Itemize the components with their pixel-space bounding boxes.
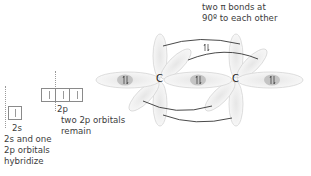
carbon-atom-2-label: C — [232, 73, 239, 84]
electron-up-2s — [15, 109, 16, 117]
pi-bonds-caption-line2: 90º to each other — [202, 13, 277, 24]
hybridize-caption-line1: 2s and one — [4, 134, 52, 145]
orbital-box-2p — [41, 88, 83, 102]
carbon-atom-1-label: C — [156, 73, 163, 84]
remain-caption-line2: remain — [61, 126, 91, 137]
label-2s: 2s — [12, 123, 22, 134]
remain-caption-line1: two 2p orbitals — [61, 115, 125, 126]
energy-axis-2s — [5, 86, 6, 128]
orbital-2pz — [70, 89, 83, 101]
hybridize-caption-line2: 2p orbitals — [4, 145, 50, 156]
orbital-box-2s — [8, 106, 22, 120]
hybridize-caption-line3: hybridize — [4, 156, 44, 167]
orbital-2px — [42, 89, 56, 101]
orbital-2py — [56, 89, 70, 101]
label-2p: 2p — [57, 104, 68, 115]
pi-bonds-caption-line1: two π bonds at — [202, 2, 266, 13]
